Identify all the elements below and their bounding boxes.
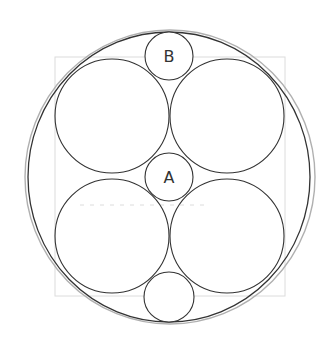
large-circle-bottom-right — [170, 179, 284, 293]
circle-label-b: B — [164, 47, 175, 66]
small-circle-b: B — [145, 32, 193, 80]
small-circle-a: A — [145, 153, 193, 201]
diagram-svg: BA — [0, 0, 331, 345]
large-circle-bottom-left — [55, 179, 169, 293]
large-circle-top-right — [170, 59, 284, 173]
small-circle-bottom-outline — [144, 272, 194, 322]
large-circle-top-left — [55, 59, 169, 173]
circle-label-a: A — [164, 168, 175, 187]
circle-packing-diagram: BA — [0, 0, 331, 345]
small-circle-bottom — [144, 272, 194, 322]
